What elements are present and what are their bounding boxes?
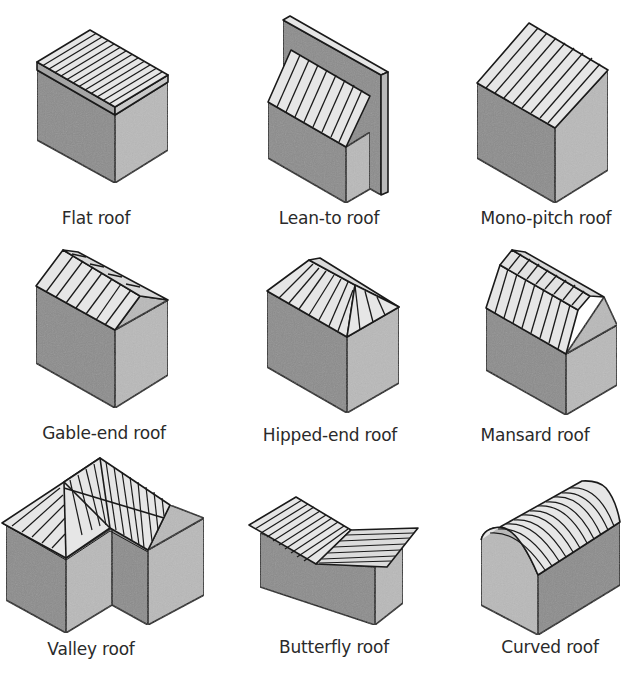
hipped-end-roof-illustration	[267, 258, 399, 413]
roof-label-flat: Flat roof	[62, 208, 131, 228]
valley-roof-illustration	[2, 458, 204, 633]
roof-label-butterfly: Butterfly roof	[279, 637, 389, 657]
roof-label-curved: Curved roof	[501, 637, 599, 657]
gable-end-roof-illustration	[36, 250, 168, 408]
mansard-roof-illustration	[486, 250, 617, 415]
roof-label-valley: Valley roof	[47, 639, 134, 659]
roof-label-mono-pitch: Mono-pitch roof	[481, 208, 612, 228]
curved-roof-illustration	[481, 481, 620, 635]
roof-types-diagram	[0, 0, 628, 678]
mono-pitch-roof-illustration	[477, 23, 608, 203]
lean-to-roof-illustration	[268, 16, 388, 203]
roof-label-mansard: Mansard roof	[480, 425, 589, 445]
flat-roof-illustration	[37, 30, 168, 183]
roof-label-gable-end: Gable-end roof	[42, 423, 166, 443]
roof-label-lean-to: Lean-to roof	[279, 208, 379, 228]
butterfly-roof-illustration	[249, 497, 418, 625]
roof-label-hipped-end: Hipped-end roof	[263, 425, 397, 445]
